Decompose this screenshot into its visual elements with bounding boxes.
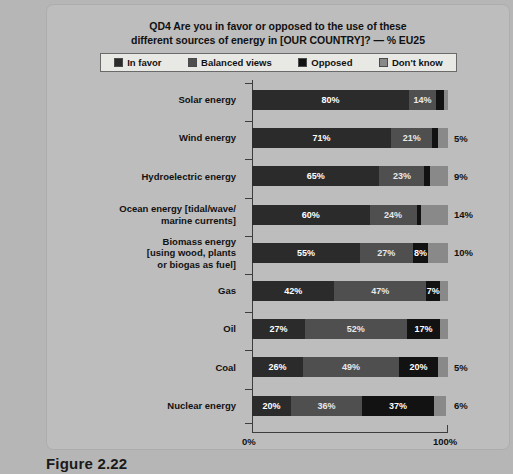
bar-segment-balanced-views[interactable]: 36% (291, 396, 362, 416)
bar-segment-opposed[interactable] (436, 90, 444, 110)
bar-segment-balanced-views[interactable]: 23% (379, 166, 424, 186)
bar-segment-in-favor[interactable]: 71% (252, 128, 391, 148)
legend-item-opposed: Opposed (298, 57, 352, 68)
bar-segment-balanced-views[interactable]: 21% (391, 128, 432, 148)
stacked-bar[interactable]: 71%21% (252, 128, 448, 148)
bar-segment-balanced-views[interactable]: 49% (303, 357, 399, 377)
chart-row: Oil27%52%17% (46, 311, 510, 347)
stacked-bar[interactable]: 65%23% (252, 166, 448, 186)
row-outside-value-label: 9% (454, 166, 468, 186)
row-bar-wrapper: 60%24% (252, 205, 448, 225)
stacked-bar[interactable]: 20%36%37% (252, 396, 446, 416)
row-outside-value-label: 10% (454, 243, 473, 263)
bar-segment-dont-know[interactable] (430, 166, 448, 186)
bar-segment-value: 65% (307, 171, 325, 181)
bar-segment-in-favor[interactable]: 55% (252, 243, 360, 263)
bar-segment-dont-know[interactable] (438, 357, 448, 377)
bar-segment-value: 80% (321, 95, 339, 105)
bar-segment-value: 52% (347, 324, 365, 334)
row-bar-wrapper: 71%21% (252, 128, 448, 148)
bar-segment-value: 42% (284, 286, 302, 296)
bar-segment-value: 23% (393, 171, 411, 181)
stacked-bar[interactable]: 80%14% (252, 90, 448, 110)
bar-segment-value: 26% (268, 362, 286, 372)
row-bar-wrapper: 26%49%20% (252, 357, 448, 377)
bar-segment-value: 24% (384, 210, 402, 220)
y-axis-tick (245, 312, 252, 313)
bar-segment-value: 17% (414, 324, 432, 334)
y-axis-tick (245, 83, 252, 84)
row-bar-wrapper: 42%47%7% (252, 281, 448, 301)
chart-row: Wind energy71%21%5% (46, 120, 510, 156)
row-category-label: Gas (46, 273, 242, 309)
chart-title-line-1: QD4 Are you in favor or opposed to the u… (58, 20, 498, 34)
bar-segment-value: 55% (297, 248, 315, 258)
chart-row: Hydroelectric energy65%23%9% (46, 158, 510, 194)
bar-segment-value: 36% (317, 401, 335, 411)
y-axis-tick (245, 350, 252, 351)
bar-segment-opposed[interactable]: 8% (413, 243, 429, 263)
bar-segment-in-favor[interactable]: 26% (252, 357, 303, 377)
legend-swatch-icon (114, 58, 123, 67)
bar-segment-opposed[interactable]: 17% (407, 319, 440, 339)
chart-row: Gas42%47%7% (46, 273, 510, 309)
bar-segment-dont-know[interactable] (421, 205, 448, 225)
bar-segment-in-favor[interactable]: 60% (252, 205, 370, 225)
chart-title-line-2: different sources of energy in [OUR COUN… (58, 34, 498, 48)
chart-legend: In favorBalanced viewsOpposedDon't know (100, 53, 457, 72)
row-category-label: Nuclear energy (46, 388, 242, 424)
row-category-label: Wind energy (46, 120, 242, 156)
y-axis-tick (245, 389, 252, 390)
row-category-label: Ocean energy [tidal/wave/ marine current… (46, 197, 242, 233)
stacked-bar[interactable]: 27%52%17% (252, 319, 448, 339)
bar-segment-in-favor[interactable]: 20% (252, 396, 291, 416)
bar-segment-dont-know[interactable] (444, 90, 448, 110)
bar-segment-balanced-views[interactable]: 27% (360, 243, 413, 263)
chart-row: Solar energy80%14% (46, 82, 510, 118)
bar-segment-in-favor[interactable]: 80% (252, 90, 409, 110)
bar-segment-balanced-views[interactable]: 14% (409, 90, 436, 110)
bar-segment-opposed[interactable]: 37% (362, 396, 435, 416)
bar-segment-value: 20% (263, 401, 281, 411)
stacked-bar[interactable]: 42%47%7% (252, 281, 448, 301)
bar-segment-value: 7% (427, 286, 440, 296)
stacked-bar[interactable]: 60%24% (252, 205, 448, 225)
bar-segment-dont-know[interactable] (434, 396, 446, 416)
row-bar-wrapper: 65%23% (252, 166, 448, 186)
bar-segment-value: 20% (410, 362, 428, 372)
y-axis-tick (245, 236, 252, 237)
y-axis-tick (245, 121, 252, 122)
row-bar-wrapper: 55%27%8% (252, 243, 448, 263)
stacked-bar[interactable]: 55%27%8% (252, 243, 448, 263)
chart-row: Ocean energy [tidal/wave/ marine current… (46, 197, 510, 233)
row-bar-wrapper: 27%52%17% (252, 319, 448, 339)
y-axis-tick (245, 159, 252, 160)
bar-segment-dont-know[interactable] (440, 319, 448, 339)
bar-segment-opposed[interactable]: 7% (426, 281, 440, 301)
bar-segment-opposed[interactable]: 20% (399, 357, 438, 377)
bar-segment-in-favor[interactable]: 27% (252, 319, 305, 339)
row-bar-wrapper: 80%14% (252, 90, 448, 110)
bar-segment-balanced-views[interactable]: 47% (334, 281, 426, 301)
bar-segment-in-favor[interactable]: 65% (252, 166, 379, 186)
stacked-bar[interactable]: 26%49%20% (252, 357, 448, 377)
legend-item-label: Don't know (392, 57, 443, 68)
legend-item-label: In favor (127, 57, 161, 68)
bar-segment-value: 49% (342, 362, 360, 372)
bar-segment-dont-know[interactable] (438, 128, 448, 148)
plot-area: 0% 100% Solar energy80%14%Wind energy71%… (46, 80, 510, 450)
legend-swatch-icon (379, 58, 388, 67)
bar-segment-value: 27% (269, 324, 287, 334)
chart-panel: QD4 Are you in favor or opposed to the u… (46, 4, 510, 450)
bar-segment-dont-know[interactable] (440, 281, 448, 301)
row-category-label: Solar energy (46, 82, 242, 118)
bar-segment-balanced-views[interactable]: 52% (305, 319, 407, 339)
y-axis-tick (245, 274, 252, 275)
source-note: Based on http://ec.europa.eu/public_opin… (0, 0, 22, 474)
bar-segment-dont-know[interactable] (428, 243, 448, 263)
bar-segment-in-favor[interactable]: 42% (252, 281, 334, 301)
bar-segment-balanced-views[interactable]: 24% (370, 205, 417, 225)
chart-title: QD4 Are you in favor or opposed to the u… (58, 20, 498, 47)
bar-segment-value: 27% (377, 248, 395, 258)
legend-item-balanced-views: Balanced views (188, 57, 272, 68)
